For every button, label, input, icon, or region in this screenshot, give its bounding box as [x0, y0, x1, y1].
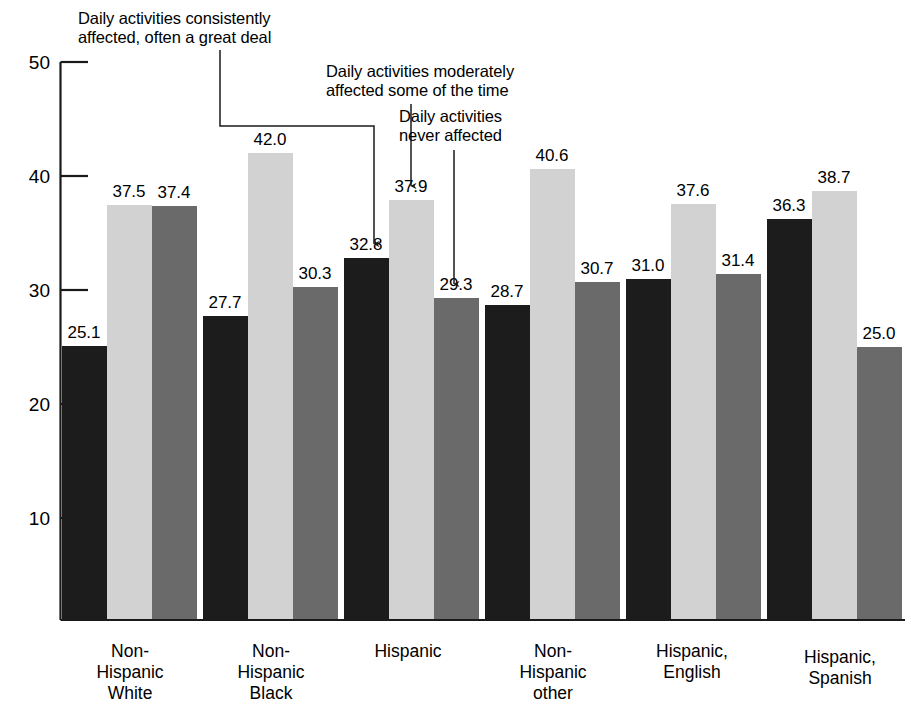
category-line-1: Hispanic: [374, 641, 441, 661]
bar-group-non-hispanic-black: 27.7 42.0 30.3: [203, 130, 338, 619]
bar-other-moderately[interactable]: [530, 169, 575, 619]
category-label-non-hispanic-black: Non- Hispanic Black: [237, 641, 304, 703]
category-line-1: Non-: [534, 641, 572, 661]
bar-spanish-moderately[interactable]: [812, 191, 857, 619]
bar-white-consistently[interactable]: [62, 346, 107, 619]
category-line-2: Spanish: [808, 668, 871, 688]
category-line-3: Black: [250, 683, 293, 703]
value-label-other-never: 30.7: [580, 259, 613, 278]
value-label-white-consistently: 25.1: [67, 323, 100, 342]
category-line-3: White: [108, 683, 153, 703]
value-label-white-moderately: 37.5: [112, 182, 145, 201]
category-line-1: Non-: [252, 641, 290, 661]
bar-english-consistently[interactable]: [626, 279, 671, 619]
bar-group-non-hispanic-white: 25.1 37.5 37.4: [62, 182, 197, 619]
bar-black-consistently[interactable]: [203, 316, 248, 619]
x-axis-category-labels: Non- Hispanic White Non- Hispanic Black …: [96, 641, 876, 703]
bar-black-never[interactable]: [293, 287, 338, 619]
bar-white-never[interactable]: [152, 206, 197, 619]
annotation-1-line-1: Daily activities consistently: [78, 9, 271, 27]
category-line-2: Hispanic: [237, 662, 304, 682]
grouped-bar-chart: 50 40 30 20 10 25.1 37.5 37.4 27.7 42.0 …: [0, 0, 915, 725]
value-label-hispanic-consistently: 32.8: [349, 235, 382, 254]
category-line-2: Hispanic: [519, 662, 586, 682]
category-line-2: Hispanic: [96, 662, 163, 682]
bar-spanish-consistently[interactable]: [767, 219, 812, 619]
bar-other-never[interactable]: [575, 282, 620, 619]
value-label-hispanic-never: 29.3: [439, 275, 472, 294]
bar-black-moderately[interactable]: [248, 153, 293, 619]
annotation-3-line-2: never affected: [399, 126, 502, 144]
value-label-other-consistently: 28.7: [490, 282, 523, 301]
bar-group-non-hispanic-other: 28.7 40.6 30.7: [485, 146, 620, 619]
category-line-2: English: [663, 662, 720, 682]
value-label-black-consistently: 27.7: [208, 293, 241, 312]
category-line-1: Hispanic,: [804, 647, 876, 667]
bar-english-moderately[interactable]: [671, 204, 716, 619]
category-label-non-hispanic-white: Non- Hispanic White: [96, 641, 163, 703]
annotation-2-line-2: affected some of the time: [326, 81, 508, 99]
category-label-hispanic-spanish: Hispanic, Spanish: [804, 647, 876, 688]
category-label-hispanic: Hispanic: [374, 641, 441, 661]
bar-group-hispanic-spanish: 36.3 38.7 25.0: [767, 168, 902, 619]
category-label-non-hispanic-other: Non- Hispanic other: [519, 641, 586, 703]
value-label-spanish-moderately: 38.7: [817, 168, 850, 187]
category-line-1: Hispanic,: [656, 641, 728, 661]
value-label-other-moderately: 40.6: [535, 146, 568, 165]
category-label-hispanic-english: Hispanic, English: [656, 641, 728, 682]
value-label-black-moderately: 42.0: [253, 130, 286, 149]
category-line-1: Non-: [111, 641, 149, 661]
value-label-english-consistently: 31.0: [631, 256, 664, 275]
y-tick-label-30: 30: [29, 280, 50, 301]
annotation-2-line-1: Daily activities moderately: [326, 62, 515, 80]
bar-hispanic-moderately[interactable]: [389, 200, 434, 619]
bar-english-never[interactable]: [716, 274, 761, 619]
bar-group-hispanic: 32.8 37.9 29.3: [344, 177, 479, 619]
bar-hispanic-consistently[interactable]: [344, 258, 389, 619]
y-tick-label-40: 40: [29, 166, 50, 187]
value-label-english-moderately: 37.6: [676, 181, 709, 200]
annotation-1-line-2: affected, often a great deal: [78, 28, 271, 46]
bar-other-consistently[interactable]: [485, 305, 530, 619]
y-tick-label-10: 10: [29, 508, 50, 529]
y-tick-label-20: 20: [29, 394, 50, 415]
value-label-spanish-never: 25.0: [862, 324, 895, 343]
chart-canvas: 50 40 30 20 10 25.1 37.5 37.4 27.7 42.0 …: [0, 0, 915, 725]
bar-spanish-never[interactable]: [857, 347, 902, 619]
bar-group-hispanic-english: 31.0 37.6 31.4: [626, 181, 761, 619]
value-label-black-never: 30.3: [298, 264, 331, 283]
annotation-3-line-1: Daily activities: [399, 107, 502, 125]
bar-hispanic-never[interactable]: [434, 298, 479, 619]
value-label-white-never: 37.4: [157, 183, 190, 202]
y-tick-label-50: 50: [29, 52, 50, 73]
value-label-english-never: 31.4: [721, 251, 754, 270]
bar-white-moderately[interactable]: [107, 205, 152, 619]
value-label-spanish-consistently: 36.3: [772, 196, 805, 215]
category-line-3: other: [533, 683, 573, 703]
